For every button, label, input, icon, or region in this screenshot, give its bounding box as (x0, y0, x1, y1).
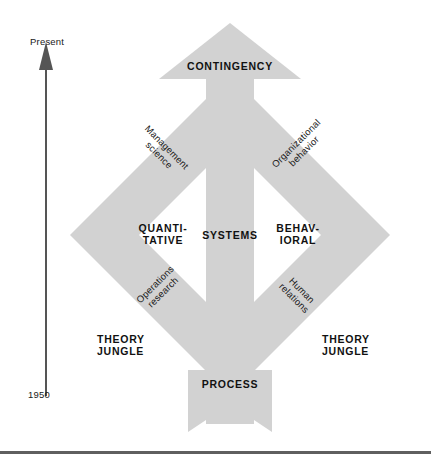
stage-label-quantitative: QUANTI- TATIVE (128, 222, 198, 247)
stage-label-process: PROCESS (190, 378, 270, 390)
annotation-theory-jungle-left: THEORY JUNGLE (97, 333, 177, 358)
stage-label-contingency: CONTINGENCY (170, 60, 290, 72)
annotation-theory-jungle-right: THEORY JUNGLE (322, 333, 408, 358)
stage-label-behavioral: BEHAV- IORAL (263, 222, 333, 247)
management-theory-diagram: Present 1950 CONTINGENCY QUANTI- TATIVE … (0, 0, 431, 467)
footer-rule (0, 451, 431, 454)
axis-label-1950: 1950 (28, 389, 50, 400)
stage-label-systems: SYSTEMS (196, 229, 264, 241)
axis-label-present: Present (30, 36, 64, 47)
